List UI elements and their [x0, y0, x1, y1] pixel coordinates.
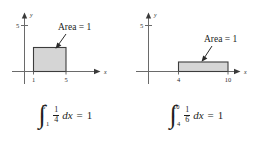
- figure-uniform-1-to-5: 5 y x 1 5 Area = 1 ∫ 5 1: [0, 0, 131, 149]
- annotation-arrowhead: [202, 56, 208, 62]
- figure-uniform-4-to-10: 5 y x 4 10 Area = 1 ∫ 10 4: [131, 0, 262, 149]
- integral-expression: ∫ 10 4 1 6 dx = 1: [170, 103, 223, 127]
- x-tick-label-5: 5: [64, 76, 67, 83]
- equals-sign: =: [77, 109, 83, 121]
- integral-expression: ∫ 5 1 1 4 dx = 1: [39, 103, 92, 127]
- fraction-integrand: 1 6: [184, 106, 190, 125]
- fraction-numerator: 1: [53, 106, 59, 114]
- y-axis-arrowhead: [22, 13, 27, 19]
- annotation-label: Area = 1: [204, 34, 238, 44]
- y-tick-label-5: 5: [140, 22, 143, 29]
- differential-dx: dx: [193, 109, 203, 121]
- y-axis-arrowhead: [146, 13, 151, 19]
- x-tick-label-1: 1: [32, 76, 35, 83]
- y-axis-label: y: [153, 12, 157, 18]
- fraction-denominator: 6: [184, 116, 190, 124]
- fraction-numerator: 1: [184, 106, 190, 114]
- x-axis-label: x: [103, 69, 107, 75]
- annotation-label: Area = 1: [58, 22, 92, 32]
- equals-sign: =: [208, 109, 214, 121]
- formula-left: ∫ 5 1 1 4 dx = 1: [0, 94, 131, 136]
- x-tick-label-10: 10: [225, 76, 232, 83]
- plot-area-left: 5 y x 1 5 Area = 1: [0, 0, 131, 95]
- differential-dx: dx: [62, 109, 72, 121]
- x-axis-arrowhead: [94, 69, 101, 74]
- area-rectangle: [179, 62, 229, 72]
- integral-result: 1: [218, 109, 224, 121]
- x-tick-label-4: 4: [177, 76, 181, 83]
- x-axis-arrowhead: [234, 69, 241, 74]
- integral-result: 1: [87, 109, 93, 121]
- x-axis-label: x: [243, 69, 247, 75]
- integral-sign: ∫: [39, 105, 46, 125]
- area-rectangle: [34, 48, 67, 72]
- formula-right: ∫ 10 4 1 6 dx = 1: [131, 94, 262, 136]
- plot-area-right: 5 y x 4 10 Area = 1: [131, 0, 262, 95]
- fraction-denominator: 4: [53, 116, 59, 124]
- y-tick-label-5: 5: [16, 22, 19, 29]
- integral-lower-limit: 4: [177, 120, 180, 127]
- integral-sign: ∫: [170, 105, 177, 125]
- fraction-integrand: 1 4: [53, 106, 59, 125]
- integral-lower-limit: 1: [46, 120, 49, 127]
- y-axis-label: y: [29, 12, 33, 18]
